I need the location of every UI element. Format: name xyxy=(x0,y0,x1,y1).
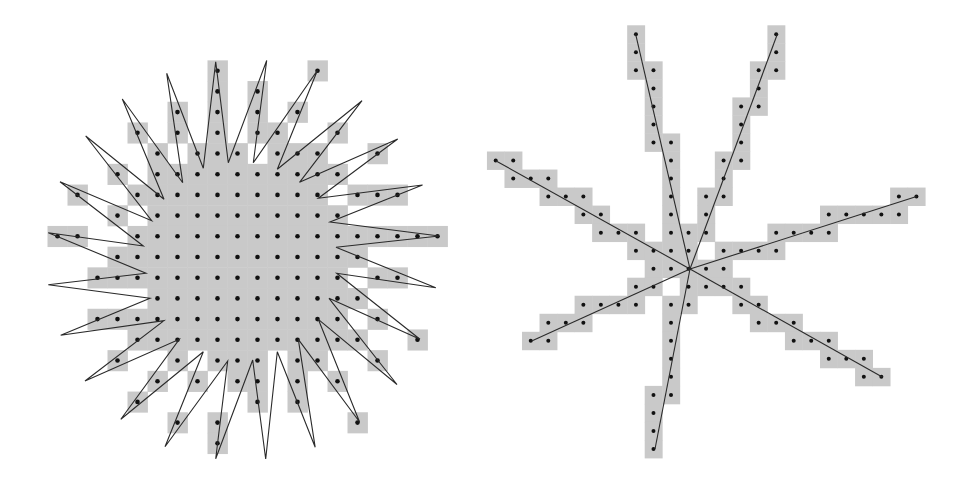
sample-dot xyxy=(275,317,280,322)
sample-dot xyxy=(581,195,585,199)
sample-dot xyxy=(215,234,220,239)
sample-dot xyxy=(255,193,260,198)
sample-dot xyxy=(215,151,220,156)
left-star-polygon-figure xyxy=(48,60,448,459)
sample-dot xyxy=(757,249,761,253)
sample-dot xyxy=(195,255,200,260)
sample-dot xyxy=(175,296,180,301)
sample-dot xyxy=(774,249,778,253)
sample-dot xyxy=(175,193,180,198)
sample-dot xyxy=(155,379,160,384)
sample-dot xyxy=(315,338,320,343)
sample-dot xyxy=(511,159,515,163)
sample-dot xyxy=(155,338,160,343)
sample-dot xyxy=(757,321,761,325)
sample-dot xyxy=(175,213,180,218)
sample-dot xyxy=(651,68,655,72)
sample-dot xyxy=(704,195,708,199)
sample-dot xyxy=(295,255,300,260)
sample-dot xyxy=(215,338,220,343)
sample-dot xyxy=(175,275,180,280)
sample-dot xyxy=(235,275,240,280)
sample-dot xyxy=(757,303,761,307)
sample-dot xyxy=(275,338,280,343)
sample-dot xyxy=(295,213,300,218)
sample-dot xyxy=(195,296,200,301)
sample-dot xyxy=(669,303,673,307)
sample-dot xyxy=(295,172,300,177)
sample-dot xyxy=(669,231,673,235)
sample-dot xyxy=(774,68,778,72)
sample-dot xyxy=(634,249,638,253)
sample-dot xyxy=(564,195,568,199)
sample-dot xyxy=(792,321,796,325)
sample-dot xyxy=(295,296,300,301)
sample-dot xyxy=(295,234,300,239)
sample-dot xyxy=(335,255,340,260)
sample-dot xyxy=(195,275,200,280)
sample-dot xyxy=(651,267,655,271)
sample-dot xyxy=(295,193,300,198)
sample-dot xyxy=(295,275,300,280)
sample-dot xyxy=(669,249,673,253)
sample-dot xyxy=(275,255,280,260)
sample-dot xyxy=(315,193,320,198)
sample-dot xyxy=(546,195,550,199)
sample-dot xyxy=(546,177,550,181)
sample-dot xyxy=(844,213,848,217)
sample-dot xyxy=(395,275,400,280)
sample-dot xyxy=(255,317,260,322)
ray-segment xyxy=(690,269,883,377)
sample-dot xyxy=(275,213,280,218)
sample-dot xyxy=(395,234,400,239)
sample-dot xyxy=(634,285,638,289)
sample-dot xyxy=(195,379,200,384)
sample-dot xyxy=(669,213,673,217)
sample-dot xyxy=(669,339,673,343)
sample-dot xyxy=(255,358,260,363)
sample-dot xyxy=(669,321,673,325)
sample-dot xyxy=(155,255,160,260)
sample-dot xyxy=(651,429,655,433)
sample-dot xyxy=(335,234,340,239)
sample-dot xyxy=(335,338,340,343)
sample-dot xyxy=(255,172,260,177)
sample-dot xyxy=(722,267,726,271)
sample-dot xyxy=(255,234,260,239)
sample-dot xyxy=(335,296,340,301)
sample-dot xyxy=(722,249,726,253)
sample-dot xyxy=(295,110,300,115)
sample-dot xyxy=(155,296,160,301)
sample-dot xyxy=(739,140,743,144)
sample-dot xyxy=(255,296,260,301)
sample-dot xyxy=(897,195,901,199)
sample-dot xyxy=(669,159,673,163)
sample-dot xyxy=(255,338,260,343)
sample-dot xyxy=(897,213,901,217)
sample-dot xyxy=(862,375,866,379)
sample-dot xyxy=(546,339,550,343)
sample-dot xyxy=(651,122,655,126)
sample-dot xyxy=(335,172,340,177)
sample-dot xyxy=(739,303,743,307)
sample-dot xyxy=(195,234,200,239)
sample-dot xyxy=(215,296,220,301)
sample-dot xyxy=(375,234,380,239)
sample-dot xyxy=(155,213,160,218)
sample-dot xyxy=(115,317,120,322)
sample-dot xyxy=(255,275,260,280)
sample-dot xyxy=(581,213,585,217)
sample-dot xyxy=(862,357,866,361)
sample-dot xyxy=(564,321,568,325)
ray-segment xyxy=(496,161,690,269)
sample-dot xyxy=(195,317,200,322)
sample-dot xyxy=(315,151,320,156)
sample-dot xyxy=(651,393,655,397)
sample-dot xyxy=(235,193,240,198)
sample-dot xyxy=(739,122,743,126)
sample-dot xyxy=(546,321,550,325)
sample-dot xyxy=(792,339,796,343)
sample-dot xyxy=(235,338,240,343)
sample-dot xyxy=(275,296,280,301)
sample-dot xyxy=(827,213,831,217)
